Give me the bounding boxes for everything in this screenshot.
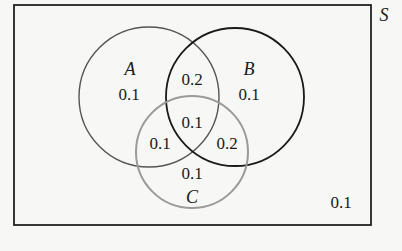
- value-c-only: 0.1: [181, 164, 202, 183]
- set-label-a: A: [124, 59, 137, 79]
- universe-label: S: [380, 5, 389, 25]
- value-b-c: 0.2: [216, 134, 237, 153]
- value-b-only: 0.1: [238, 85, 259, 104]
- value-a-b-c: 0.1: [181, 113, 202, 132]
- value-a-only: 0.1: [118, 85, 139, 104]
- value-a-b: 0.2: [181, 70, 202, 89]
- venn-diagram: S A B C 0.1 0.1 0.1 0.2 0.1 0.2 0.1 0.1: [0, 0, 402, 251]
- set-label-b: B: [244, 59, 255, 79]
- value-a-c: 0.1: [149, 134, 170, 153]
- value-outside: 0.1: [330, 193, 351, 212]
- set-label-c: C: [186, 187, 199, 207]
